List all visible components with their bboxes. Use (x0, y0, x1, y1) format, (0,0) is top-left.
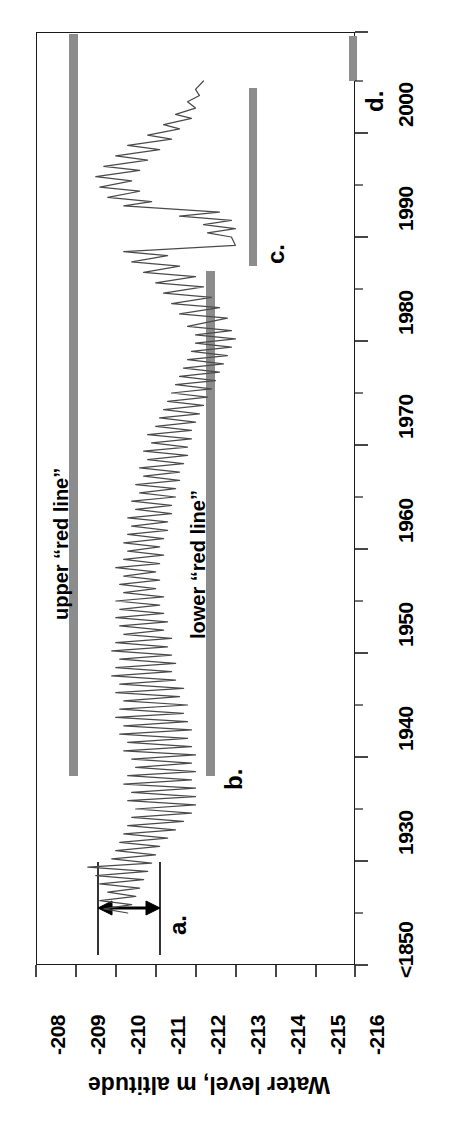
value-tick-label: -208 (46, 1015, 70, 1055)
time-tick-label: 1930 (394, 810, 418, 855)
upper-red-line-bar (69, 34, 78, 776)
value-tick-label: -211 (166, 1016, 190, 1055)
marker-b-label: b. (220, 769, 248, 790)
time-axis-ticks (355, 32, 368, 965)
value-axis-ticks (36, 965, 355, 977)
time-tick-label: 1990 (394, 186, 418, 231)
marker-a-label: a. (164, 915, 192, 935)
time-tick-label: 1950 (394, 602, 418, 647)
time-tick-label: <1850 (394, 922, 418, 978)
lower-red-line-label: lower “red line” (187, 490, 210, 639)
value-tick-label: -212 (206, 1015, 230, 1055)
marker-d-label: d. (361, 91, 389, 112)
time-tick-label: 1960 (394, 498, 418, 543)
time-tick-label: 2000 (394, 82, 418, 127)
value-axis-title: Water level, m altitude (88, 1071, 330, 1098)
upper-red-line-label: upper “red line” (50, 468, 73, 620)
time-tick-label: 1970 (394, 394, 418, 439)
marker-c-bar (249, 88, 257, 266)
time-tick-label: 1980 (394, 290, 418, 335)
value-tick-label: -213 (246, 1015, 270, 1055)
value-tick-label: -216 (365, 1015, 389, 1055)
value-tick-label: -214 (286, 1015, 310, 1055)
value-tick-label: -210 (126, 1015, 150, 1055)
water-level-chart-figure: -208 -209 -210 -211 -212 -213 -214 -215 … (0, 0, 456, 1138)
marker-d-bar (349, 36, 357, 81)
time-tick-label: 1940 (394, 706, 418, 751)
marker-c-label: c. (262, 244, 290, 264)
value-tick-label: -209 (86, 1015, 110, 1055)
value-tick-label: -215 (326, 1015, 350, 1055)
